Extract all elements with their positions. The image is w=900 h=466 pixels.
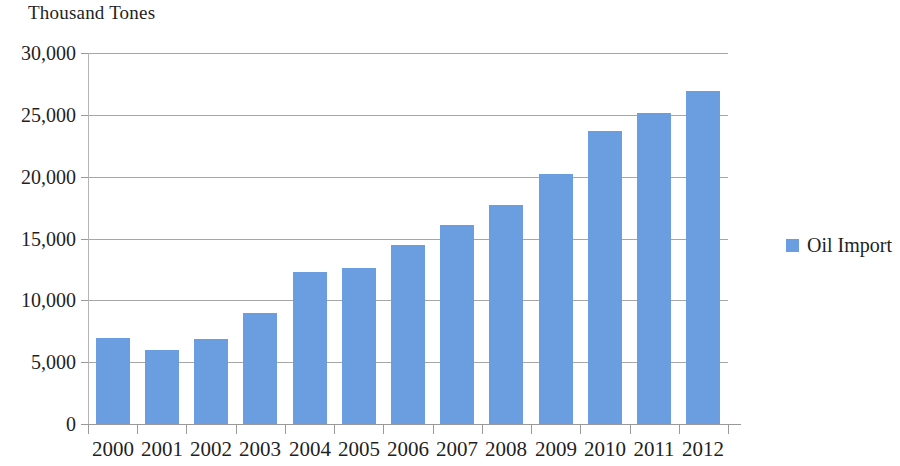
x-axis-tick — [236, 425, 237, 434]
bar-2011 — [637, 113, 671, 424]
bar-2002 — [194, 339, 228, 424]
bar-2010 — [588, 131, 622, 424]
bar-2009 — [539, 174, 573, 424]
legend-swatch-oil-import — [786, 239, 799, 252]
x-axis-tick — [433, 425, 434, 434]
x-axis-tick-label: 2011 — [633, 437, 674, 462]
bar-2005 — [342, 268, 376, 424]
y-axis-tick-label: 25,000 — [0, 104, 76, 127]
x-axis-tick-label: 2005 — [338, 437, 380, 462]
x-axis-tick-label: 2000 — [92, 437, 134, 462]
y-axis-tick — [81, 239, 88, 240]
bars-layer — [88, 53, 728, 424]
bar-2007 — [440, 225, 474, 424]
y-axis-tick-label: 15,000 — [0, 228, 76, 251]
y-axis-tick — [81, 362, 88, 363]
x-axis-tick-label: 2009 — [535, 437, 577, 462]
bar-2000 — [96, 338, 130, 424]
x-axis-tick — [88, 425, 89, 434]
y-axis-tick-label: 20,000 — [0, 166, 76, 189]
bar-chart: Thousand Tones 30,00025,00020,00015,0001… — [0, 0, 900, 466]
x-axis-tick — [334, 425, 335, 434]
x-axis-tick-label: 2006 — [387, 437, 429, 462]
x-axis-tick — [728, 425, 729, 434]
x-axis-tick-label: 2012 — [682, 437, 724, 462]
x-axis-tick — [580, 425, 581, 434]
x-axis-tick — [482, 425, 483, 434]
x-axis-tick-label: 2004 — [289, 437, 331, 462]
x-axis-tick-label: 2007 — [436, 437, 478, 462]
y-axis-tick-label: 10,000 — [0, 289, 76, 312]
y-axis-tick — [81, 424, 88, 425]
x-axis-tick — [531, 425, 532, 434]
bar-2008 — [489, 205, 523, 424]
y-axis-tick — [81, 53, 88, 54]
x-axis-tick-label: 2001 — [141, 437, 183, 462]
x-axis-tick — [383, 425, 384, 434]
legend-label-oil-import: Oil Import — [807, 234, 892, 257]
y-axis-tick — [81, 177, 88, 178]
bar-2003 — [243, 313, 277, 424]
x-axis-tick-label: 2003 — [239, 437, 281, 462]
y-axis-labels: 30,00025,00020,00015,00010,0005,0000 — [0, 0, 76, 466]
bar-2004 — [293, 272, 327, 424]
x-axis-tick-label: 2008 — [485, 437, 527, 462]
x-axis-tick — [679, 425, 680, 434]
y-axis-tick — [81, 300, 88, 301]
y-axis-tick-label: 30,000 — [0, 42, 76, 65]
x-axis-tick — [630, 425, 631, 434]
x-axis-tick-label: 2010 — [584, 437, 626, 462]
x-axis-tick — [285, 425, 286, 434]
bar-2012 — [686, 91, 720, 424]
bar-2001 — [145, 350, 179, 424]
x-axis-tick — [186, 425, 187, 434]
y-axis-tick-label: 0 — [0, 413, 76, 436]
y-axis-tick — [81, 115, 88, 116]
y-axis-tick-label: 5,000 — [0, 351, 76, 374]
bar-2006 — [391, 245, 425, 424]
x-axis-tick — [137, 425, 138, 434]
x-axis-tick-label: 2002 — [190, 437, 232, 462]
chart-legend: Oil Import — [786, 234, 892, 257]
